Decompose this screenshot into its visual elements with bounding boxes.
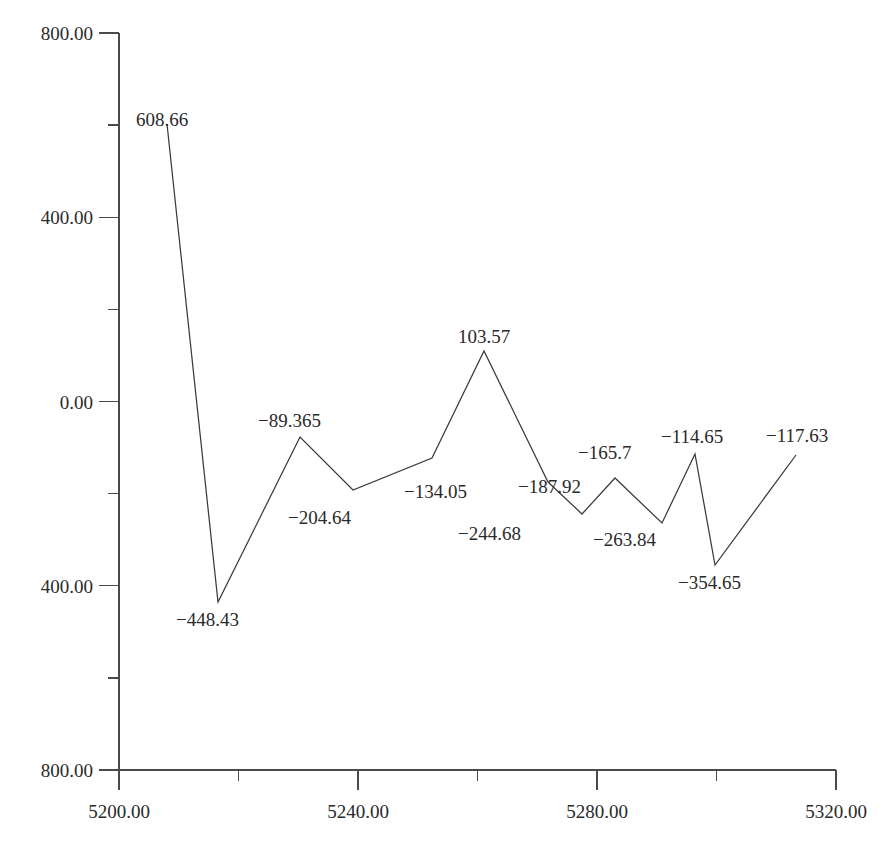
- data-point-label: −244.68: [458, 523, 521, 544]
- data-point-label: 103.57: [458, 326, 510, 347]
- line-chart-figure: 800.00400.000.00400.00800.00 5200.005240…: [0, 0, 889, 844]
- data-point-label: −114.65: [661, 426, 723, 447]
- data-point-label: −165.7: [578, 442, 631, 463]
- data-point-label: 608.66: [136, 109, 188, 130]
- data-point-label: −263.84: [593, 529, 656, 550]
- chart-background: [0, 0, 889, 844]
- data-point-label: −448.43: [176, 609, 239, 630]
- data-point-label: −354.65: [678, 572, 741, 593]
- x-axis-tick-label: 5320.00: [805, 801, 867, 822]
- data-point-label: −117.63: [766, 425, 828, 446]
- y-axis-tick-label: 800.00: [41, 760, 93, 781]
- y-axis-tick-label: 800.00: [41, 23, 93, 44]
- data-point-label: −204.64: [288, 507, 351, 528]
- y-axis-tick-label: 400.00: [41, 207, 93, 228]
- y-axis-tick-label: 0.00: [60, 392, 93, 413]
- data-point-label: −89.365: [258, 410, 321, 431]
- x-axis-tick-label: 5200.00: [88, 801, 150, 822]
- data-point-label: −134.05: [404, 481, 467, 502]
- x-axis-tick-label: 5280.00: [566, 801, 628, 822]
- x-axis-tick-label: 5240.00: [327, 801, 389, 822]
- data-point-label: −187.92: [518, 476, 581, 497]
- y-axis-tick-label: 400.00: [41, 576, 93, 597]
- chart-canvas: 800.00400.000.00400.00800.00 5200.005240…: [0, 0, 889, 844]
